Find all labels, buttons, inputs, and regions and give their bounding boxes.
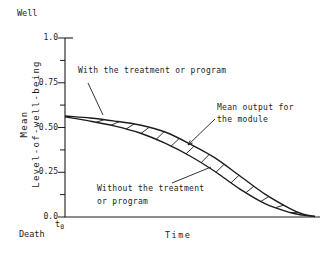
hatch-line [141, 128, 149, 134]
y-tick-label: 0.0 [18, 212, 58, 221]
y-tick-label: 0.75 [18, 78, 58, 87]
y-axis-top-label: Well [17, 8, 37, 18]
y-axis-bottom-label: Death [19, 229, 45, 239]
hatch-line [216, 164, 224, 172]
annotation-without-line2: or program [97, 195, 204, 208]
x-axis-title: Time [165, 230, 191, 240]
origin-time-subscript: 0 [60, 223, 64, 231]
hatch-line [261, 196, 269, 201]
hatch-line [156, 132, 164, 140]
figure-root: Well Death Time t0 Mean Level-of-well-be… [0, 0, 328, 255]
hatch-line [126, 124, 134, 129]
hatch-line [231, 175, 239, 183]
hatch-line [186, 146, 194, 154]
annotation-module-line1: Mean output for [217, 102, 294, 114]
hatch-line [171, 139, 179, 147]
annotation-module-line2: the module [217, 114, 294, 126]
y-tick-label: 0.50 [18, 123, 58, 132]
y-tick-label: 1.0 [18, 33, 58, 42]
annotation-with-treatment: With the treatment or program [78, 66, 226, 75]
annotation-without-line1: Without the treatment [97, 182, 204, 195]
y-tick-label: 0.25 [18, 167, 58, 176]
annotation-without-treatment: Without the treatment or program [97, 182, 204, 208]
hatch-line [201, 155, 209, 163]
leader-without-treatment [172, 167, 211, 183]
leader-mean-output [188, 119, 215, 145]
leader-with-treatment [88, 83, 103, 115]
annotation-mean-output: Mean output for the module [217, 102, 294, 125]
hatch-line [246, 186, 254, 193]
